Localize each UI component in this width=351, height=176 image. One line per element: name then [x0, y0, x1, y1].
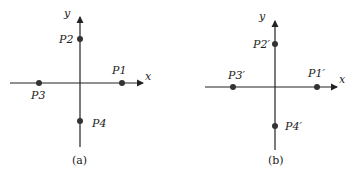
point-p2-prime — [272, 41, 278, 47]
caption-b: (b) — [268, 154, 284, 167]
point-p1-prime — [314, 84, 320, 90]
point-p4-prime — [272, 123, 278, 129]
point-p4 — [77, 118, 83, 124]
x-axis-label: x — [145, 70, 152, 83]
label-p4-prime: P4′ — [284, 120, 302, 133]
point-p3 — [36, 80, 42, 86]
label-p2: P2 — [58, 33, 73, 46]
diagram-b: y x P1′ P2′ P3′ P4′ (b) — [205, 10, 346, 167]
y-axis-label: y — [258, 10, 266, 23]
y-axis-label: y — [63, 7, 71, 20]
point-p2 — [77, 36, 83, 42]
x-axis-label: x — [339, 73, 346, 86]
label-p2-prime: P2′ — [252, 38, 270, 51]
label-p3-prime: P3′ — [227, 69, 245, 82]
label-p3: P3 — [30, 89, 45, 102]
point-p1 — [119, 80, 125, 86]
caption-a: (a) — [72, 154, 87, 167]
point-p3-prime — [230, 84, 236, 90]
label-p1: P1 — [111, 64, 126, 77]
label-p4: P4 — [91, 117, 106, 130]
label-p1-prime: P1′ — [307, 67, 325, 80]
diagram-a: y x P1 P2 P3 P4 (a) — [10, 7, 152, 167]
diagram-canvas: y x P1 P2 P3 P4 (a) y x P1′ P2′ P3′ P4′ … — [0, 0, 351, 176]
